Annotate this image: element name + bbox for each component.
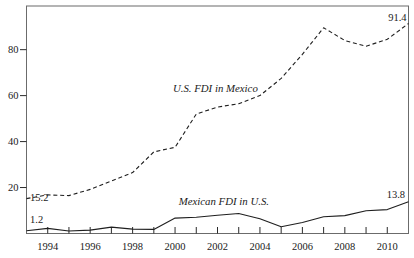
series-label-mexican-fdi-in-u-s: Mexican FDI in U.S. bbox=[178, 195, 269, 207]
x-tick-label: 2000 bbox=[165, 241, 186, 252]
x-tick-label: 2002 bbox=[207, 241, 228, 252]
point-label-15-2: 15.2 bbox=[30, 192, 48, 203]
point-label-1-2: 1.2 bbox=[30, 214, 43, 225]
fdi-chart-svg: 2040608019941996199820002002200420062008… bbox=[0, 0, 414, 258]
x-tick-label: 1996 bbox=[80, 241, 101, 252]
series-line-u-s-fdi-in-mexico bbox=[27, 24, 409, 199]
point-label-91-4: 91.4 bbox=[388, 12, 407, 23]
x-tick-label: 2010 bbox=[377, 241, 398, 252]
x-tick-label: 1998 bbox=[122, 241, 143, 252]
y-tick-label: 40 bbox=[8, 136, 19, 147]
x-tick-label: 2006 bbox=[292, 241, 313, 252]
point-label-13-8: 13.8 bbox=[387, 189, 405, 200]
x-tick-label: 2008 bbox=[334, 241, 355, 252]
y-tick-label: 80 bbox=[8, 44, 19, 55]
series-label-u-s-fdi-in-mexico: U.S. FDI in Mexico bbox=[173, 82, 258, 94]
x-tick-label: 1994 bbox=[37, 241, 59, 252]
y-tick-label: 20 bbox=[8, 182, 19, 193]
fdi-line-chart-figure: 2040608019941996199820002002200420062008… bbox=[0, 0, 414, 258]
y-tick-label: 60 bbox=[8, 90, 19, 101]
x-tick-label: 2004 bbox=[249, 241, 271, 252]
